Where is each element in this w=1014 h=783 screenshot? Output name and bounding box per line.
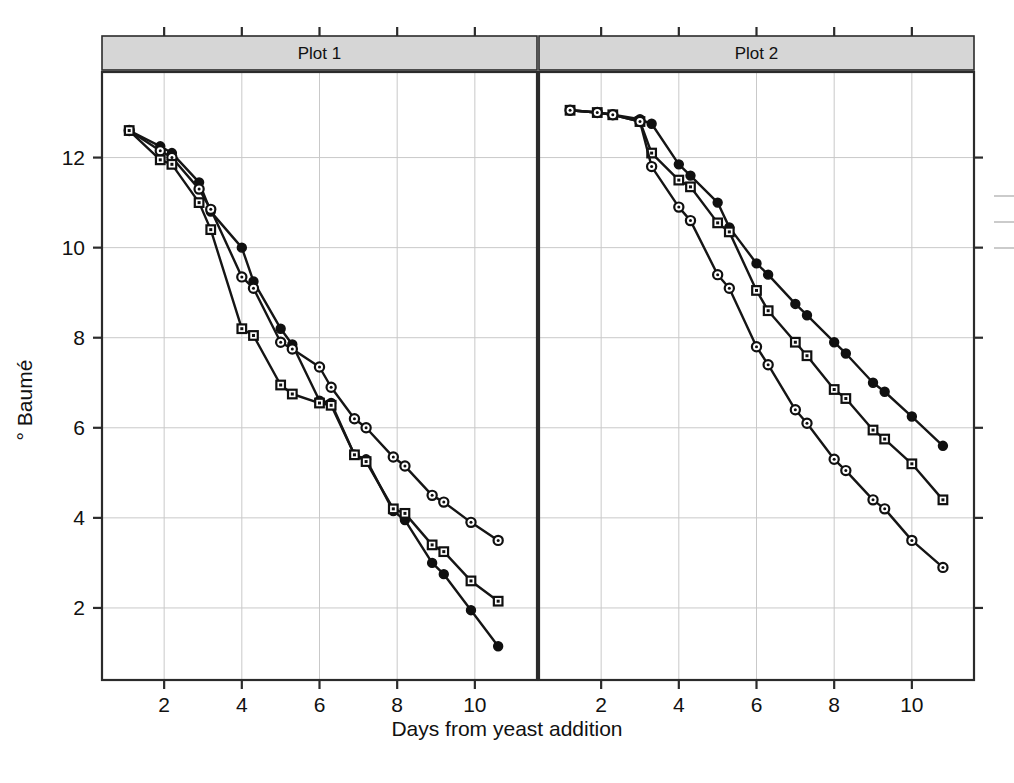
marker-p1-series-b-13-core — [392, 456, 395, 459]
marker-p1-series-b-12-core — [365, 426, 368, 429]
ytick-label-4: 4 — [73, 506, 85, 529]
xtick-label-8-p1: 8 — [391, 693, 403, 716]
marker-p1-series-c-4-core — [209, 228, 212, 231]
marker-p2-series-b-15-core — [872, 429, 875, 432]
marker-p2-series-b-14-core — [844, 397, 847, 400]
xtick-label-10-p2: 10 — [900, 693, 923, 716]
y-axis-title: ° Baumé — [13, 360, 36, 441]
marker-p2-series-c-9-core — [755, 345, 758, 348]
marker-p2-series-b-12-core — [805, 354, 808, 357]
marker-p1-series-b-3-core — [198, 188, 201, 191]
marker-p1-series-c-16-core — [442, 550, 445, 553]
xtick-label-4-p2: 4 — [673, 693, 685, 716]
marker-p1-series-c-1-core — [159, 158, 162, 161]
marker-p2-series-c-1-core — [596, 111, 599, 114]
marker-p2-series-c-13-core — [833, 458, 836, 461]
marker-p2-series-a-7 — [713, 198, 722, 207]
marker-p1-series-c-11-core — [353, 453, 356, 456]
marker-p2-series-a-9 — [752, 259, 761, 268]
marker-p2-series-c-17-core — [910, 539, 913, 542]
marker-p1-series-a-5 — [237, 243, 246, 252]
xtick-label-10-p1: 10 — [463, 693, 486, 716]
marker-p2-series-c-3-core — [638, 120, 641, 123]
marker-p2-series-b-8-core — [728, 230, 731, 233]
marker-p2-series-b-5-core — [677, 179, 680, 182]
marker-p1-series-b-16-core — [442, 501, 445, 504]
marker-p2-series-a-15 — [869, 378, 878, 387]
marker-p2-series-c-0-core — [569, 109, 572, 112]
marker-p1-series-b-15-core — [431, 494, 434, 497]
marker-p1-series-b-11-core — [353, 417, 356, 420]
marker-p1-series-c-15-core — [431, 543, 434, 546]
marker-p2-series-a-17 — [907, 412, 916, 421]
marker-p1-series-c-9-core — [318, 402, 321, 405]
ytick-label-6: 6 — [73, 416, 85, 439]
marker-p1-series-c-5-core — [240, 327, 243, 330]
ytick-label-2: 2 — [73, 596, 85, 619]
marker-p2-series-b-7-core — [716, 221, 719, 224]
marker-p1-series-b-5-core — [240, 275, 243, 278]
marker-p1-series-b-17-core — [469, 521, 472, 524]
marker-p2-series-a-12 — [803, 311, 812, 320]
marker-p2-series-c-18-core — [941, 566, 944, 569]
marker-p1-series-b-10-core — [330, 386, 333, 389]
marker-p2-series-b-4-core — [650, 152, 653, 155]
marker-p2-series-c-10-core — [767, 363, 770, 366]
marker-p2-series-a-11 — [791, 300, 800, 309]
marker-p1-series-c-10-core — [330, 404, 333, 407]
marker-p2-series-c-15-core — [872, 498, 875, 501]
marker-p1-series-c-3-core — [198, 201, 201, 204]
xtick-label-8-p2: 8 — [828, 693, 840, 716]
marker-p1-series-b-14-core — [403, 465, 406, 468]
chart-figure: Plot 1Plot 2 24681024681024681012 Days f… — [0, 0, 1014, 783]
marker-p2-series-c-2-core — [611, 113, 614, 116]
marker-p1-series-c-6-core — [252, 334, 255, 337]
marker-p1-series-c-2-core — [170, 163, 173, 166]
marker-p1-series-a-7 — [276, 324, 285, 333]
marker-p2-series-b-11-core — [794, 341, 797, 344]
marker-p2-series-c-14-core — [844, 469, 847, 472]
marker-p1-series-b-6-core — [252, 287, 255, 290]
xtick-label-6-p2: 6 — [751, 693, 763, 716]
marker-p2-series-b-10-core — [767, 309, 770, 312]
marker-p2-series-c-12-core — [805, 422, 808, 425]
marker-p1-series-a-16 — [439, 570, 448, 579]
marker-p1-series-c-7-core — [279, 384, 282, 387]
marker-p2-series-c-4-core — [650, 165, 653, 168]
xtick-label-6-p1: 6 — [314, 693, 326, 716]
marker-p1-series-b-1-core — [159, 149, 162, 152]
marker-p1-series-c-14-core — [403, 512, 406, 515]
marker-p1-series-b-9-core — [318, 365, 321, 368]
marker-p2-series-b-16-core — [883, 438, 886, 441]
panel-strip-label-2: Plot 2 — [735, 44, 778, 63]
xtick-label-2-p1: 2 — [158, 693, 170, 716]
marker-p1-series-c-0-core — [128, 129, 131, 132]
marker-p2-series-a-5 — [674, 160, 683, 169]
ytick-label-8: 8 — [73, 326, 85, 349]
marker-p2-series-c-16-core — [883, 507, 886, 510]
marker-p2-series-c-7-core — [716, 273, 719, 276]
marker-p1-series-c-18-core — [497, 600, 500, 603]
marker-p2-series-a-6 — [686, 171, 695, 180]
marker-p1-series-b-2-core — [170, 156, 173, 159]
marker-p2-series-c-11-core — [794, 408, 797, 411]
marker-p1-series-b-4-core — [209, 208, 212, 211]
xtick-label-2-p2: 2 — [595, 693, 607, 716]
marker-p1-series-b-8-core — [291, 347, 294, 350]
marker-p1-series-c-13-core — [392, 507, 395, 510]
marker-p2-series-a-13 — [830, 338, 839, 347]
panel-strip-label-1: Plot 1 — [298, 44, 341, 63]
marker-p2-series-b-18-core — [941, 498, 944, 501]
marker-p1-series-b-7-core — [279, 341, 282, 344]
marker-p1-series-a-17 — [467, 606, 476, 615]
marker-p2-series-b-6-core — [689, 185, 692, 188]
marker-p2-series-c-8-core — [728, 287, 731, 290]
marker-p1-series-c-8-core — [291, 393, 294, 396]
marker-p2-series-a-18 — [939, 441, 948, 450]
marker-p1-series-b-18-core — [497, 539, 500, 542]
trellis-line-chart: Plot 1Plot 2 24681024681024681012 Days f… — [0, 0, 1014, 783]
marker-p1-series-c-17-core — [469, 579, 472, 582]
figure-background — [0, 0, 1014, 783]
marker-p1-series-a-15 — [428, 559, 437, 568]
ytick-label-12: 12 — [62, 146, 85, 169]
